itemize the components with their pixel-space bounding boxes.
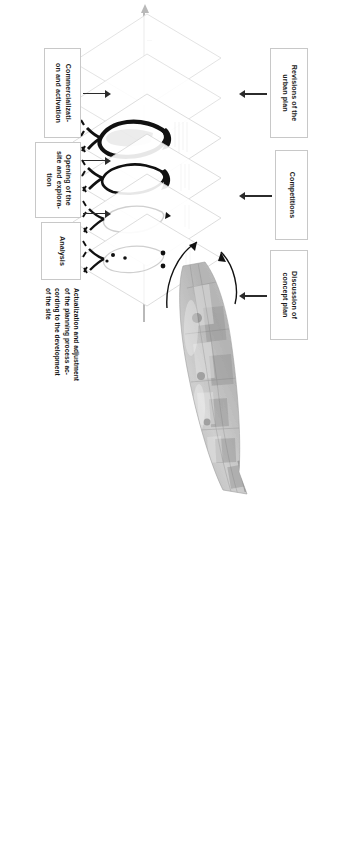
- arrow-down-revisions: [245, 93, 267, 95]
- arrow-up-analysis: [83, 213, 105, 214]
- phase-box-revisions[interactable]: Revisions of the urban plan: [270, 48, 308, 138]
- plane-layer-2: [71, 52, 223, 148]
- process-caption: Actualization and adjustment of the plan…: [44, 288, 81, 408]
- phase-box-opening[interactable]: Opening of the site and explora- tion: [35, 142, 81, 218]
- arrow-up-commercialization: [83, 93, 105, 94]
- phase-box-analysis[interactable]: Analysis: [41, 222, 81, 280]
- poster-canvas: Revisions of the urban plan Competitions…: [0, 0, 353, 843]
- phase-box-competitions[interactable]: Competitions: [275, 150, 308, 240]
- phase-box-commercialization[interactable]: Commercializati- on and activation: [44, 48, 81, 138]
- timeline-tick: [147, 40, 152, 41]
- arrow-up-opening: [83, 160, 105, 161]
- arrow-down-competitions: [245, 195, 272, 197]
- plane-layer-5: [71, 172, 223, 268]
- plane-layer-3: [71, 92, 223, 188]
- phase-box-discussion[interactable]: Discussion of concept plan: [270, 250, 308, 340]
- timeline-axis: [144, 12, 146, 322]
- aerial-photo: [165, 258, 257, 498]
